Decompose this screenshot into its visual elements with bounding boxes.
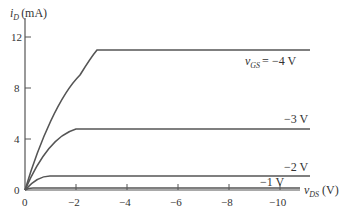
label-vgs-neg3: −3 V — [284, 112, 309, 126]
label-vgs-neg2: −2 V — [284, 160, 309, 174]
x-tick-label-neg4: −4 — [119, 196, 131, 208]
x-tick-label-0: 0 — [22, 196, 28, 208]
label-vgs-neg1: −1 V — [260, 175, 285, 189]
x-tick-label-neg10: −10 — [269, 196, 287, 208]
y-tick-label-0: 0 — [14, 184, 20, 196]
y-ticks — [25, 37, 31, 139]
y-tick-label-8: 8 — [14, 82, 20, 94]
chart: 12 8 4 0 0 −2 −4 −6 −8 −10 iD(mA) vDS(V)… — [0, 0, 341, 215]
y-tick-label-12: 12 — [11, 31, 22, 43]
x-tick-label-neg6: −6 — [170, 196, 182, 208]
x-tick-label-neg8: −8 — [221, 196, 233, 208]
y-tick-label-4: 4 — [14, 133, 20, 145]
x-ticks — [76, 184, 280, 190]
x-axis-label: vDS(V) — [304, 183, 339, 199]
label-vgs-neg4: vGS= −4 V — [245, 54, 296, 70]
y-axis-label: iD(mA) — [10, 6, 47, 22]
curve-vgs-neg4 — [25, 50, 310, 190]
x-tick-label-neg2: −2 — [68, 196, 80, 208]
